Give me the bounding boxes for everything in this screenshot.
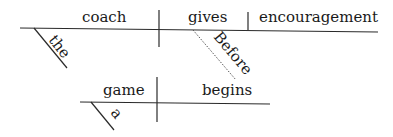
sentence-diagram: coach gives encouragement the Before gam… [0, 0, 393, 137]
connector-word: Before [210, 28, 256, 78]
main-subject-word: coach [82, 8, 127, 26]
main-verb-word: gives [188, 8, 227, 26]
subordinate-baseline [80, 102, 270, 104]
subordinate-subject-word: game [103, 81, 145, 99]
subordinate-verb-word: begins [202, 81, 252, 99]
main-baseline [20, 28, 378, 32]
main-object-word: encouragement [259, 8, 378, 26]
subordinate-subject-modifier-word: a [107, 104, 127, 122]
main-subject-modifier-word: the [45, 31, 74, 62]
